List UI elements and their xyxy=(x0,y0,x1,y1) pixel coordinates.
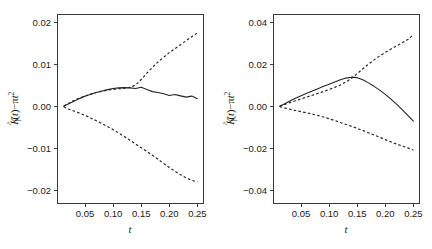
figure-container: 0.020.010.00−0.01−0.020.050.100.150.200.… xyxy=(0,0,432,249)
x-tick-label: 0.20 xyxy=(160,208,179,219)
x-axis-title: t xyxy=(344,223,348,235)
x-tick-label: 0.25 xyxy=(404,208,423,219)
x-tick-label: 0.10 xyxy=(104,208,123,219)
x-tick-label: 0.05 xyxy=(76,208,95,219)
y-tick-label: −0.02 xyxy=(243,143,267,154)
x-tick-label: 0.15 xyxy=(132,208,151,219)
y-tick-label: −0.04 xyxy=(243,185,267,196)
x-tick-label: 0.20 xyxy=(376,208,395,219)
y-tick-label: −0.01 xyxy=(27,143,51,154)
curve-upper-envelope xyxy=(280,35,414,107)
y-axis-title: K^i(t)−πt2 xyxy=(221,91,239,125)
y-tick-label: 0.00 xyxy=(249,101,268,112)
curve-lower-envelope xyxy=(280,107,414,150)
plot-area-right: 0.040.020.00−0.02−0.040.050.100.150.200.… xyxy=(216,0,432,249)
plot-frame xyxy=(273,14,419,203)
chart-panel-left: 0.020.010.00−0.01−0.020.050.100.150.200.… xyxy=(0,0,216,249)
y-tick-label: 0.04 xyxy=(249,17,268,28)
plot-area-left: 0.020.010.00−0.01−0.020.050.100.150.200.… xyxy=(0,0,216,249)
y-tick-label: 0.00 xyxy=(33,101,52,112)
chart-panel-right: 0.040.020.00−0.02−0.040.050.100.150.200.… xyxy=(216,0,432,249)
y-tick-label: 0.01 xyxy=(33,59,52,70)
y-tick-label: 0.02 xyxy=(249,59,268,70)
curve-observed xyxy=(64,87,198,106)
x-axis-title: t xyxy=(128,223,132,235)
x-tick-label: 0.10 xyxy=(320,208,339,219)
x-tick-label: 0.25 xyxy=(188,208,207,219)
y-tick-label: −0.02 xyxy=(27,185,51,196)
y-tick-label: 0.02 xyxy=(33,17,52,28)
curve-lower-envelope xyxy=(64,107,198,182)
y-axis-title: K^i(t)−πt2 xyxy=(5,91,23,125)
x-tick-label: 0.15 xyxy=(348,208,367,219)
x-tick-label: 0.05 xyxy=(292,208,311,219)
